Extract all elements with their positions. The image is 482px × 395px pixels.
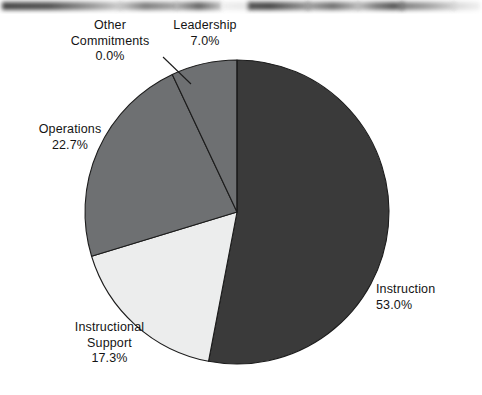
pie-chart-page: Leadership 7.0% Other Commitments 0.0% O… — [0, 0, 482, 395]
pie-chart: Leadership 7.0% Other Commitments 0.0% O… — [0, 0, 482, 395]
slice-label-other-commitments-name-line2: Commitments — [50, 34, 170, 50]
pie-slice-group — [85, 60, 389, 364]
slice-label-operations-name: Operations — [10, 122, 130, 138]
slice-label-instructional-support: Instructional Support 17.3% — [42, 320, 177, 367]
slice-label-instruction-name: Instruction — [376, 282, 476, 298]
slice-label-instruction-value: 53.0% — [376, 298, 476, 314]
slice-label-instructional-support-name-line1: Instructional — [42, 320, 177, 336]
slice-label-other-commitments-value: 0.0% — [50, 49, 170, 65]
slice-label-other-commitments: Other Commitments 0.0% — [50, 18, 170, 65]
slice-label-operations-value: 22.7% — [10, 138, 130, 154]
slice-label-other-commitments-name-line1: Other — [50, 18, 170, 34]
slice-label-instruction: Instruction 53.0% — [376, 282, 476, 313]
slice-label-operations: Operations 22.7% — [10, 122, 130, 153]
slice-label-instructional-support-name-line2: Support — [42, 336, 177, 352]
slice-label-instructional-support-value: 17.3% — [42, 351, 177, 367]
